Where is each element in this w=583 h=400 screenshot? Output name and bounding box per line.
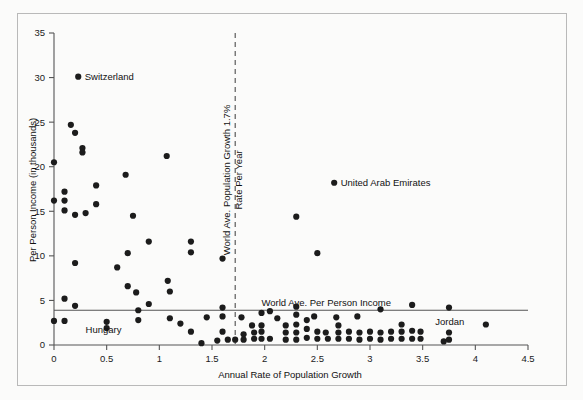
- data-point: [167, 315, 173, 321]
- data-point: [399, 336, 405, 342]
- data-point: [314, 329, 320, 335]
- data-point: [130, 213, 136, 219]
- data-point: [72, 212, 78, 218]
- data-point: [133, 289, 139, 295]
- refline-label2-world-ave-population-growth: Rate Per Year: [233, 150, 244, 209]
- data-point: [399, 329, 405, 335]
- data-point: [93, 201, 99, 207]
- data-point: [214, 337, 220, 343]
- data-point: [335, 322, 341, 328]
- data-point: [314, 336, 320, 342]
- annotation-marker-united-arab-emirates: [331, 180, 337, 186]
- data-point: [51, 318, 57, 324]
- data-point: [446, 337, 452, 343]
- refline-label-world-ave-population-growth: World Ave. Population Growth 1.7%: [221, 104, 232, 255]
- data-point: [93, 182, 99, 188]
- data-points: [51, 122, 489, 347]
- data-point: [249, 322, 255, 328]
- data-point: [377, 306, 383, 312]
- data-point: [125, 250, 131, 256]
- y-tick-label-6: 30: [34, 72, 45, 83]
- x-axis-tick-labels: 00.511.522.533.544.5: [51, 353, 534, 364]
- annotation-label-jordan: Jordan: [435, 316, 464, 327]
- x-tick-label-0: 0: [51, 353, 56, 364]
- data-point: [483, 321, 489, 327]
- data-point: [323, 329, 329, 335]
- data-point: [354, 313, 360, 319]
- data-point: [293, 214, 299, 220]
- data-point: [114, 264, 120, 270]
- data-point: [409, 302, 415, 308]
- data-point: [258, 310, 264, 316]
- y-tick-label-1: 5: [40, 295, 45, 306]
- data-point: [177, 321, 183, 327]
- data-point: [377, 337, 383, 343]
- scatter-plot: World Ave. Population Growth 1.7%Rate Pe…: [0, 0, 583, 400]
- data-point: [219, 255, 225, 261]
- data-point: [238, 314, 244, 320]
- data-point: [335, 329, 341, 335]
- data-point: [204, 314, 210, 320]
- annotation-label-hungary: Hungary: [86, 324, 122, 335]
- data-point: [219, 313, 225, 319]
- annotation-marker-switzerland: [75, 74, 81, 80]
- data-point: [123, 172, 129, 178]
- data-point: [241, 331, 247, 337]
- data-point: [367, 329, 373, 335]
- data-point: [83, 210, 89, 216]
- data-point: [165, 278, 171, 284]
- data-point: [225, 337, 231, 343]
- data-point: [293, 304, 299, 310]
- data-point: [146, 238, 152, 244]
- y-axis-title: Per Person Income (in thousands): [27, 118, 38, 262]
- data-point: [258, 329, 264, 335]
- data-point: [399, 321, 405, 327]
- data-point: [72, 303, 78, 309]
- data-point: [241, 337, 247, 343]
- data-point: [325, 336, 331, 342]
- data-point: [417, 336, 423, 342]
- annotation-label-switzerland: Switzerland: [85, 71, 134, 82]
- data-point: [135, 307, 141, 313]
- data-point: [274, 315, 280, 321]
- data-point: [293, 321, 299, 327]
- data-point: [409, 328, 415, 334]
- annotation-label-united-arab-emirates: United Arab Emirates: [341, 177, 431, 188]
- data-point: [446, 329, 452, 335]
- refline-label-world-ave-per-person-income: World Ave. Per Person Income: [262, 297, 392, 308]
- data-point: [293, 337, 299, 343]
- data-point: [367, 336, 373, 342]
- data-point: [283, 337, 289, 343]
- data-point: [283, 322, 289, 328]
- data-point: [61, 197, 67, 203]
- x-tick-label-7: 3.5: [416, 353, 429, 364]
- data-point: [251, 329, 257, 335]
- point-annotations: SwitzerlandUnited Arab EmiratesHungaryJo…: [75, 71, 464, 335]
- x-tick-label-3: 1.5: [205, 353, 218, 364]
- data-point: [125, 283, 131, 289]
- data-point: [293, 329, 299, 335]
- data-point: [146, 301, 152, 307]
- plot-background: [0, 0, 583, 400]
- data-point: [388, 336, 394, 342]
- data-point: [258, 336, 264, 342]
- data-point: [356, 329, 362, 335]
- data-point: [188, 249, 194, 255]
- x-tick-label-8: 4: [473, 353, 478, 364]
- y-tick-label-0: 0: [40, 339, 45, 350]
- data-point: [258, 322, 264, 328]
- data-point: [72, 130, 78, 136]
- data-point: [356, 337, 362, 343]
- data-point: [333, 314, 339, 320]
- data-point: [446, 304, 452, 310]
- data-point: [219, 304, 225, 310]
- chart-page: World Ave. Population Growth 1.7%Rate Pe…: [0, 0, 583, 400]
- data-point: [61, 207, 67, 213]
- data-point: [283, 329, 289, 335]
- data-point: [167, 288, 173, 294]
- data-point: [61, 318, 67, 324]
- data-point: [311, 313, 317, 319]
- data-point: [335, 336, 341, 342]
- data-point: [72, 260, 78, 266]
- x-tick-label-5: 2.5: [311, 353, 324, 364]
